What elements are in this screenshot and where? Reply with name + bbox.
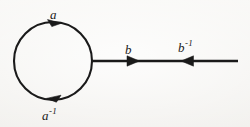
label-loop-a-inverse: a-1 <box>42 107 57 123</box>
label-edge-b-inverse: b-1 <box>178 39 193 55</box>
label-loop-a-base: a <box>50 7 57 22</box>
arrowhead-bottom-loop-icon <box>47 95 62 102</box>
label-edge-b-inverse-base: b <box>178 40 185 55</box>
figure-canvas: a a-1 b b-1 <box>0 0 250 127</box>
arrowhead-edge-b-inverse-icon <box>181 56 194 66</box>
loop-circle <box>14 22 92 100</box>
label-loop-a-inverse-base: a <box>42 108 49 123</box>
label-loop-a: a <box>50 6 57 22</box>
label-edge-b: b <box>125 41 132 57</box>
label-edge-b-inverse-sup: -1 <box>185 38 193 48</box>
arrowhead-edge-b-icon <box>127 56 140 66</box>
label-loop-a-inverse-sup: -1 <box>49 106 57 116</box>
diagram-svg <box>0 0 250 127</box>
label-edge-b-base: b <box>125 42 132 57</box>
